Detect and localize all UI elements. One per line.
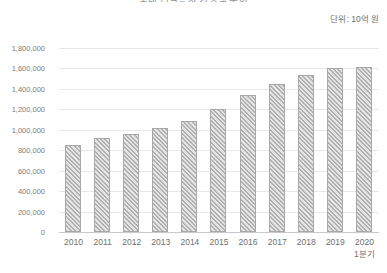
bar-slot (117, 48, 146, 232)
bar-slot (263, 48, 292, 232)
axis-baseline (59, 232, 379, 233)
x-axis-tick-year: 2012 (122, 237, 141, 247)
x-axis-tick-label: 2016 (234, 236, 263, 248)
x-axis-tick-label: 2010 (59, 236, 88, 248)
bar (210, 109, 226, 232)
y-axis-tick-label: 1,400,000 (0, 85, 45, 94)
x-axis-tick-label: 20201분기 (350, 236, 379, 260)
x-axis-tick-label: 2017 (263, 236, 292, 248)
bar-slot (234, 48, 263, 232)
x-axis-tick-year: 2017 (268, 237, 287, 247)
chart-title: 국내 건설공사 기성액 추이 (0, 0, 387, 2)
x-axis-tick-label: 2012 (117, 236, 146, 248)
x-axis-tick-year: 2016 (239, 237, 258, 247)
bar-slot (204, 48, 233, 232)
bar (356, 67, 372, 232)
x-axis-tick-year: 2014 (180, 237, 199, 247)
y-axis-tick-label: 1,600,000 (0, 64, 45, 73)
bar (269, 84, 285, 232)
bar (181, 121, 197, 232)
x-axis-tick-sublabel: 1분기 (350, 248, 379, 260)
y-axis-tick-label: 1,000,000 (0, 126, 45, 135)
x-axis-tick-label: 2013 (146, 236, 175, 248)
bar-slot (292, 48, 321, 232)
y-axis-tick-label: 600,000 (0, 167, 45, 176)
bar-chart-figure: 국내 건설공사 기성액 추이 단위: 10억 원 1,800,0001,600,… (0, 0, 387, 273)
y-axis-tick-label: 1,800,000 (0, 44, 45, 53)
bar (298, 75, 314, 232)
bar (152, 128, 168, 232)
x-axis-tick-year: 2020 (355, 237, 374, 247)
x-axis-tick-year: 2013 (151, 237, 170, 247)
x-axis-tick-label: 2018 (292, 236, 321, 248)
x-axis-tick-year: 2011 (93, 237, 111, 247)
bar (240, 95, 256, 232)
y-axis-tick-label: 200,000 (0, 208, 45, 217)
x-axis-tick-label: 2011 (88, 236, 117, 248)
x-axis-tick-year: 2010 (64, 237, 83, 247)
bar-slot (146, 48, 175, 232)
bar (123, 134, 139, 232)
bar (327, 68, 343, 232)
bar-slot (321, 48, 350, 232)
x-axis-tick-year: 2019 (326, 237, 345, 247)
x-axis-tick-label: 2015 (204, 236, 233, 248)
x-axis-tick-year: 2018 (297, 237, 316, 247)
x-axis-tick-label: 2014 (175, 236, 204, 248)
plot-area: 1,800,0001,600,0001,400,0001,200,0001,00… (59, 48, 379, 232)
chart-unit-note: 단위: 10억 원 (330, 12, 379, 24)
x-axis-tick-year: 2015 (210, 237, 229, 247)
y-axis-tick-label: 1,200,000 (0, 105, 45, 114)
y-axis-tick-label: 800,000 (0, 146, 45, 155)
x-axis-tick-label: 2019 (321, 236, 350, 248)
bar (94, 138, 110, 232)
y-axis-tick-label: 0 (0, 228, 45, 237)
bar-slot (59, 48, 88, 232)
bar-slot (175, 48, 204, 232)
bars-group (59, 48, 379, 232)
bar (65, 145, 81, 232)
bar-slot (88, 48, 117, 232)
bar-slot (350, 48, 379, 232)
x-axis: 2010201120122013201420152016201720182019… (59, 236, 379, 272)
y-axis-tick-label: 400,000 (0, 187, 45, 196)
